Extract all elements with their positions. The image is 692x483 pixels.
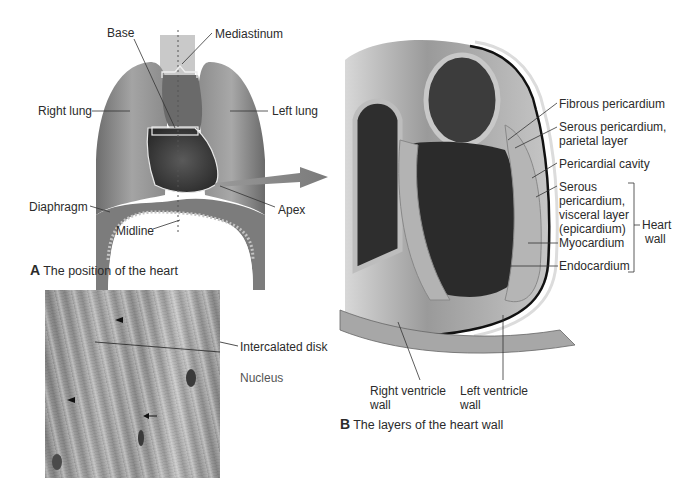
label-right-lung: Right lung <box>38 104 92 118</box>
caption-text-b: The layers of the heart wall <box>353 418 503 432</box>
label-left-ventricle-1: Left ventricle <box>460 384 528 398</box>
label-heart-wall-1: Heart <box>642 218 671 232</box>
label-serous-parietal-1: Serous pericardium, <box>559 120 666 134</box>
label-right-ventricle-1: Right ventricle <box>370 384 446 398</box>
caption-text-a: The position of the heart <box>43 264 178 278</box>
arrowhead-marker-icon <box>115 317 123 323</box>
label-serous-visceral-2: pericardium, <box>559 194 625 208</box>
thorax-illustration <box>96 30 265 290</box>
label-serous-parietal-2: parietal layer <box>559 134 628 148</box>
label-apex: Apex <box>278 203 305 217</box>
label-midline: Midline <box>116 224 154 238</box>
label-right-ventricle-2: wall <box>370 398 391 412</box>
label-heart-wall-2: wall <box>645 232 666 246</box>
arrowhead-marker-icon <box>67 397 75 403</box>
label-left-lung: Left lung <box>272 104 318 118</box>
label-myocardium: Myocardium <box>559 236 624 250</box>
label-pericardial-cavity: Pericardial cavity <box>559 157 650 171</box>
label-left-ventricle-2: wall <box>460 398 481 412</box>
caption-panel-a: AThe position of the heart <box>30 262 178 278</box>
label-serous-visceral-4: (epicardium) <box>559 222 626 236</box>
label-mediastinum: Mediastinum <box>215 27 283 41</box>
label-base: Base <box>107 26 134 40</box>
caption-panel-b: BThe layers of the heart wall <box>340 416 503 432</box>
label-intercalated-disk: Intercalated disk <box>240 340 327 354</box>
caption-letter-b: B <box>340 416 350 432</box>
cardiac-muscle-micrograph <box>45 290 220 478</box>
arrow-marker-icon <box>143 413 149 419</box>
caption-letter-a: A <box>30 262 40 278</box>
label-endocardium: Endocardium <box>559 259 630 273</box>
label-fibrous-pericardium: Fibrous pericardium <box>559 97 665 111</box>
heart-cross-section <box>340 40 575 353</box>
label-serous-visceral-3: visceral layer <box>559 208 629 222</box>
label-diaphragm: Diaphragm <box>29 200 88 214</box>
label-serous-visceral-1: Serous <box>559 180 597 194</box>
label-nucleus: Nucleus <box>240 371 283 385</box>
